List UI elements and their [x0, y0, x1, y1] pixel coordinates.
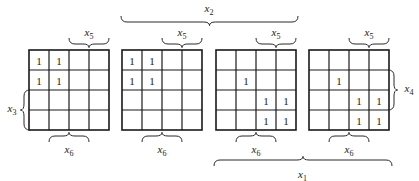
label-x3: x3 [7, 102, 17, 117]
map-cell: 1 [376, 115, 382, 127]
label-x6: x6 [251, 143, 261, 158]
map-cell: 1 [36, 75, 42, 87]
label-x6: x6 [64, 143, 74, 158]
label-x5: x5 [84, 26, 94, 41]
label-x2: x2 [204, 2, 214, 17]
map-2: 1111 [122, 50, 202, 130]
map-cell: 1 [283, 115, 289, 127]
map-cell: 1 [56, 55, 62, 67]
map-cell: 1 [129, 75, 135, 87]
map-cell: 1 [149, 75, 155, 87]
braces-layer: x5x5x5x5x6x6x6x6x2x1x3x4 [7, 2, 414, 181]
map-3: 11111 [216, 50, 296, 130]
label-x6: x6 [344, 143, 354, 158]
map-4: 11111 [309, 50, 389, 130]
karnaugh-map-diagram: 111111111111111111 x5x5x5x5x6x6x6x6x2x1x… [0, 0, 419, 181]
map-cell: 1 [36, 55, 42, 67]
brace-x1 [214, 156, 392, 166]
map-1: 1111 [29, 50, 109, 130]
maps-layer: 111111111111111111 [29, 50, 389, 130]
map-cell: 1 [283, 95, 289, 107]
map-cell: 1 [356, 95, 362, 107]
map-cell: 1 [336, 75, 342, 87]
brace-x6 [49, 132, 89, 142]
brace-x2 [121, 16, 298, 26]
brace-x6 [142, 132, 182, 142]
label-x5: x5 [177, 26, 187, 41]
map-cell: 1 [56, 75, 62, 87]
label-x6: x6 [157, 143, 167, 158]
label-x5: x5 [364, 26, 374, 41]
brace-x6 [236, 132, 276, 142]
map-cell: 1 [263, 115, 269, 127]
label-x4: x4 [404, 82, 414, 97]
map-cell: 1 [376, 95, 382, 107]
brace-x6 [329, 132, 369, 142]
label-x1: x1 [297, 168, 307, 181]
map-cell: 1 [243, 75, 249, 87]
map-cell: 1 [356, 115, 362, 127]
label-x5: x5 [271, 26, 281, 41]
map-cell: 1 [149, 55, 155, 67]
map-cell: 1 [129, 55, 135, 67]
map-cell: 1 [263, 95, 269, 107]
